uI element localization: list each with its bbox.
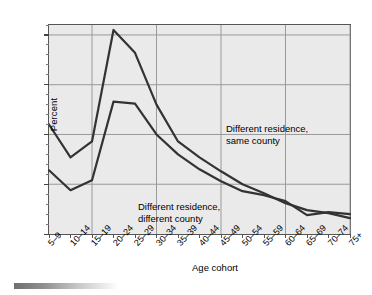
y-tick-major — [44, 134, 49, 135]
y-tick-minor — [46, 194, 49, 195]
y-axis-label: Percent — [48, 75, 59, 155]
y-tick-minor — [46, 214, 49, 215]
y-tick-minor — [46, 94, 49, 95]
y-tick-minor — [46, 144, 49, 145]
chart-figure: Percent 05101520 5–910–1415–1920–2425–29… — [0, 0, 372, 295]
y-tick-minor — [46, 164, 49, 165]
y-tick-minor — [46, 204, 49, 205]
y-tick-minor — [46, 174, 49, 175]
y-tick-minor — [46, 64, 49, 65]
y-tick-minor — [46, 44, 49, 45]
y-tick-major — [44, 34, 49, 35]
plot-area: Percent 05101520 5–910–1415–1920–2425–29… — [48, 24, 351, 235]
y-tick-minor — [46, 114, 49, 115]
annotation-different-county: Different residence, different county — [138, 201, 220, 224]
y-tick-minor — [46, 25, 49, 26]
x-axis-label-text: Age cohort — [134, 262, 238, 273]
x-axis-label: Age cohort — [0, 262, 372, 273]
y-tick-minor — [46, 224, 49, 225]
annotation-same-county: Different residence, same county — [226, 123, 308, 146]
y-tick-minor — [46, 74, 49, 75]
decorative-gradient-bar — [14, 283, 118, 289]
y-tick-minor — [46, 54, 49, 55]
y-tick-minor — [46, 124, 49, 125]
y-tick-major — [44, 84, 49, 85]
y-tick-minor — [46, 104, 49, 105]
y-tick-minor — [46, 154, 49, 155]
y-tick-major — [44, 184, 49, 185]
